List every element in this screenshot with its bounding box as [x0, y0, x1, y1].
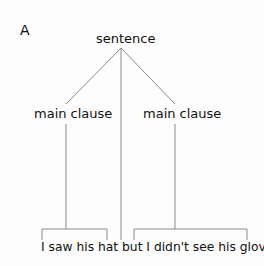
sentence-text: I saw his hat but I didn't see his glove…: [41, 240, 264, 254]
main-clause-node-right: main clause: [143, 106, 221, 121]
main-clause-node-left: main clause: [34, 106, 112, 121]
root-node: sentence: [96, 31, 156, 46]
